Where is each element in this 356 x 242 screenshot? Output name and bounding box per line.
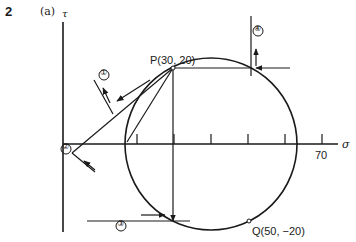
arrow-2-shear bbox=[84, 161, 95, 170]
sigma-ticks bbox=[137, 134, 322, 144]
point-q-label: Q(50, −20) bbox=[252, 225, 305, 237]
mohr-circle-diagram bbox=[0, 0, 356, 242]
arrow-1-normal bbox=[117, 80, 150, 101]
point-q bbox=[247, 219, 251, 223]
marker-3: ③ bbox=[117, 219, 124, 228]
marker-4: ④ bbox=[254, 24, 261, 33]
plane-2 bbox=[72, 153, 95, 172]
plane-1 bbox=[94, 80, 113, 114]
sigma-tick-70: 70 bbox=[315, 149, 327, 161]
arrow-1-shear bbox=[103, 88, 110, 103]
point-p-label: P(30, 20) bbox=[150, 54, 195, 66]
marker-2: ② bbox=[62, 142, 69, 151]
marker-1: ① bbox=[100, 68, 107, 77]
pole-line bbox=[72, 68, 173, 153]
point-p bbox=[171, 66, 175, 70]
